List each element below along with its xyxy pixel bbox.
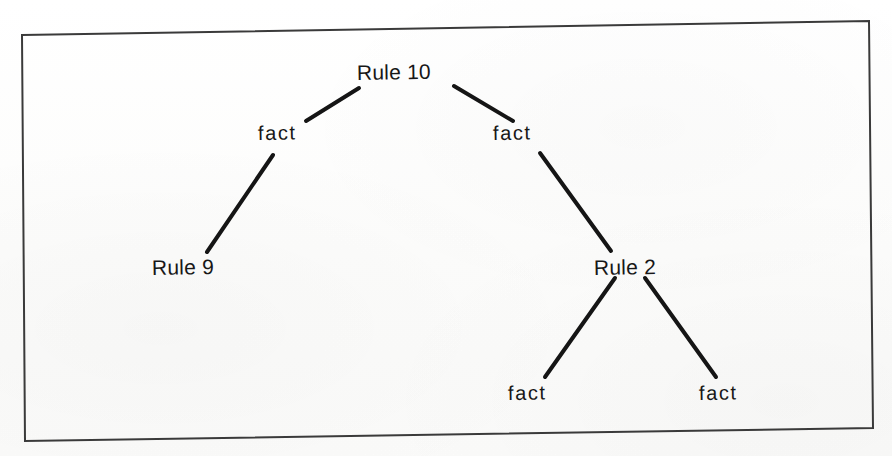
tree-node-rule2: Rule 2 [594,256,656,278]
tree-node-leaf-fact-left: fact [508,382,547,403]
derivation-tree-graphic [0,0,892,456]
figure-page: Rule 10 fact fact Rule 9 Rule 2 fact fac… [0,0,892,456]
edge-left-fact-to-rule9 [207,155,273,252]
figure-border [22,21,873,441]
edge-root-to-right-fact [454,86,513,121]
figure-border-frame: Rule 10 fact fact Rule 9 Rule 2 fact fac… [0,0,892,456]
edge-rule2-to-leaf-fact-left [545,278,615,377]
tree-node-leaf-fact-right: fact [699,382,738,403]
edge-root-to-left-fact [306,88,359,121]
edge-rule2-to-leaf-fact-right [645,278,716,377]
tree-node-root-rule10: Rule 10 [357,61,431,83]
tree-node-rule9: Rule 9 [152,256,214,278]
tree-node-left-fact: fact [258,122,297,143]
tree-node-right-fact: fact [493,122,532,143]
edge-right-fact-to-rule2 [540,153,611,251]
